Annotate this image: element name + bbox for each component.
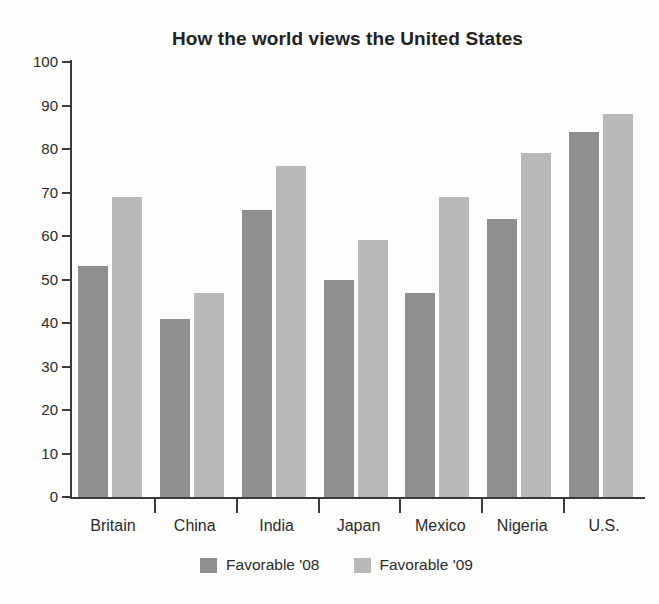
y-axis-tick-label: 80 bbox=[18, 140, 58, 157]
y-axis-tick bbox=[62, 496, 71, 498]
y-axis-tick bbox=[62, 409, 71, 411]
y-axis-tick bbox=[62, 279, 71, 281]
bar bbox=[112, 197, 142, 497]
y-axis-tick-label: 40 bbox=[18, 314, 58, 331]
bar-group bbox=[481, 62, 563, 497]
legend-entry: Favorable '09 bbox=[354, 556, 473, 574]
y-axis-tick-label: 20 bbox=[18, 401, 58, 418]
bar bbox=[78, 266, 108, 497]
y-axis-tick-label: 100 bbox=[18, 53, 58, 70]
y-axis-tick-label: 0 bbox=[18, 488, 58, 505]
bar-group bbox=[72, 62, 154, 497]
chart-title: How the world views the United States bbox=[0, 28, 659, 50]
bar bbox=[569, 132, 599, 497]
y-axis-tick bbox=[62, 61, 71, 63]
legend-swatch-icon bbox=[200, 558, 217, 573]
x-axis-category-label: Nigeria bbox=[481, 517, 563, 535]
x-axis-category-label: Britain bbox=[72, 517, 154, 535]
bar bbox=[276, 166, 306, 497]
y-axis-tick bbox=[62, 366, 71, 368]
y-axis-tick bbox=[62, 322, 71, 324]
bar bbox=[160, 319, 190, 497]
x-axis-tick bbox=[236, 499, 238, 513]
y-axis-tick-label: 50 bbox=[18, 271, 58, 288]
legend-entry: Favorable '08 bbox=[200, 556, 319, 574]
plot-area bbox=[72, 62, 645, 497]
y-axis-tick bbox=[62, 148, 71, 150]
y-axis-tick bbox=[62, 192, 71, 194]
x-axis-tick bbox=[318, 499, 320, 513]
bar bbox=[439, 197, 469, 497]
y-axis-tick bbox=[62, 235, 71, 237]
x-axis-tick bbox=[154, 499, 156, 513]
y-axis-tick-label: 70 bbox=[18, 184, 58, 201]
x-axis-tick bbox=[481, 499, 483, 513]
legend-label: Favorable '08 bbox=[226, 556, 319, 574]
y-axis-tick-label: 10 bbox=[18, 445, 58, 462]
y-axis-tick-label: 30 bbox=[18, 358, 58, 375]
x-axis-tick bbox=[399, 499, 401, 513]
bar-group bbox=[236, 62, 318, 497]
bar-chart: How the world views the United States 01… bbox=[0, 0, 659, 604]
x-axis-category-label: Mexico bbox=[399, 517, 481, 535]
bar bbox=[242, 210, 272, 497]
x-axis-category-label: China bbox=[154, 517, 236, 535]
legend: Favorable '08Favorable '09 bbox=[0, 556, 659, 574]
x-axis-category-label: U.S. bbox=[563, 517, 645, 535]
bar bbox=[194, 293, 224, 497]
bar bbox=[603, 114, 633, 497]
y-axis-tick-label: 60 bbox=[18, 227, 58, 244]
x-axis-tick bbox=[563, 499, 565, 513]
bar bbox=[358, 240, 388, 497]
x-axis-line bbox=[70, 497, 645, 499]
x-axis-category-label: India bbox=[236, 517, 318, 535]
bar-group bbox=[399, 62, 481, 497]
legend-swatch-icon bbox=[354, 558, 371, 573]
bar-group bbox=[318, 62, 400, 497]
bar bbox=[521, 153, 551, 497]
bar-group bbox=[563, 62, 645, 497]
y-axis-tick bbox=[62, 453, 71, 455]
y-axis-tick bbox=[62, 105, 71, 107]
bar bbox=[324, 280, 354, 498]
legend-label: Favorable '09 bbox=[380, 556, 473, 574]
bar-group bbox=[154, 62, 236, 497]
bar bbox=[487, 219, 517, 497]
x-axis-category-label: Japan bbox=[318, 517, 400, 535]
bar bbox=[405, 293, 435, 497]
y-axis-tick-label: 90 bbox=[18, 97, 58, 114]
